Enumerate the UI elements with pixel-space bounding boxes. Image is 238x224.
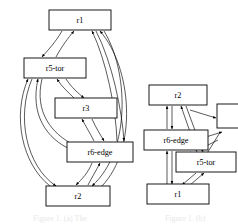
- edge-r6edge-to-r1: [92, 31, 117, 141]
- edge-r6edge-to-r3: [82, 119, 94, 141]
- node-r-r6edge[interactable]: r6-edge: [144, 130, 208, 150]
- node-label-l-r1: r1: [77, 16, 84, 25]
- node-label-l-r2: r2: [75, 192, 82, 201]
- node-label-l-r6edge: r6-edge: [87, 148, 112, 157]
- edge-r5tor-to-r1: [56, 31, 74, 57]
- edge-r3-to-r5tor: [57, 79, 74, 98]
- edge-rr1-to-rr5tor: [190, 173, 204, 185]
- right-graph-nodes: r2 r6-edge r5-tor r1: [144, 85, 238, 204]
- node-label-r-r2: r2: [175, 91, 182, 100]
- edge-r2-to-r5tor: [20, 79, 50, 186]
- node-r-r2[interactable]: r2: [149, 85, 207, 105]
- node-label-l-r5tor: r5-tor: [46, 64, 65, 73]
- node-r-cut[interactable]: [217, 104, 238, 128]
- node-r-r1[interactable]: r1: [147, 184, 209, 204]
- caption-right: Figure 1. (b): [165, 214, 206, 223]
- edge-r3-to-r6edge: [92, 119, 104, 141]
- edge-r5tor-to-r3: [66, 79, 84, 98]
- edge-r1-to-r5tor: [42, 31, 62, 57]
- edge-r2-to-r6edge: [88, 163, 100, 185]
- caption-left: Figure 1. (a) The: [33, 214, 88, 223]
- graph-canvas: r1 r5-tor r3 r6-edge r2: [0, 0, 238, 224]
- node-label-r-r5tor: r5-tor: [197, 158, 216, 167]
- figure-root: r1 r5-tor r3 r6-edge r2: [0, 0, 238, 224]
- edge-rr2-to-rcut: [190, 110, 216, 118]
- node-l-r1[interactable]: r1: [49, 10, 111, 30]
- figure-captions: Figure 1. (a) The Figure 1. (b): [33, 214, 205, 223]
- node-l-r6edge[interactable]: r6-edge: [67, 142, 133, 162]
- node-l-r2[interactable]: r2: [46, 186, 110, 206]
- node-l-r5tor[interactable]: r5-tor: [24, 58, 86, 78]
- node-label-r-r1: r1: [175, 190, 182, 199]
- node-label-r-r6edge: r6-edge: [163, 136, 188, 145]
- node-r-r5tor[interactable]: r5-tor: [176, 152, 236, 172]
- edge-rr5tor-to-rr1: [182, 173, 196, 185]
- node-label-l-r3: r3: [83, 104, 90, 113]
- node-l-r3[interactable]: r3: [55, 98, 117, 118]
